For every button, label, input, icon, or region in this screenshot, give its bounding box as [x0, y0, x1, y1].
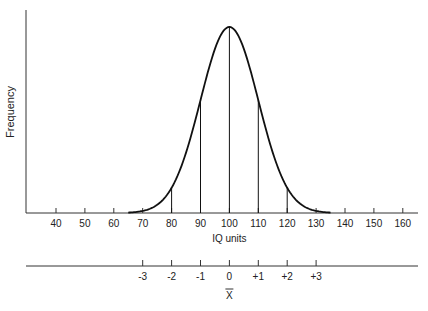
x-tick-label: 130: [308, 218, 325, 229]
sd-tick-label: +2: [281, 271, 293, 282]
x-tick-label: 70: [137, 218, 149, 229]
x-tick-label: 50: [79, 218, 91, 229]
x-axis-label: IQ units: [212, 233, 246, 244]
x-tick-label: 140: [337, 218, 354, 229]
sd-tick-label: -1: [196, 271, 205, 282]
sd-tick-label: +3: [310, 271, 322, 282]
x-tick-label: 90: [195, 218, 207, 229]
x-tick-label: 80: [166, 218, 178, 229]
normal-distribution-chart: Frequency4050607080901001101201301401501…: [0, 0, 428, 311]
sd-tick-label: -3: [138, 271, 147, 282]
x-tick-label: 120: [279, 218, 296, 229]
x-tick-label: 110: [250, 218, 266, 229]
x-tick-label: 160: [394, 218, 411, 229]
x-tick-label: 150: [366, 218, 383, 229]
x-tick-label: 100: [221, 218, 238, 229]
x-tick-label: 40: [50, 218, 62, 229]
sd-tick-label: 0: [227, 271, 233, 282]
y-axis-label: Frequency: [4, 86, 16, 138]
plot-area: Frequency4050607080901001101201301401501…: [4, 10, 418, 301]
sd-tick-label: +1: [253, 271, 265, 282]
mean-symbol-label: X: [226, 290, 233, 301]
sd-tick-label: -2: [167, 271, 176, 282]
x-tick-label: 60: [108, 218, 120, 229]
